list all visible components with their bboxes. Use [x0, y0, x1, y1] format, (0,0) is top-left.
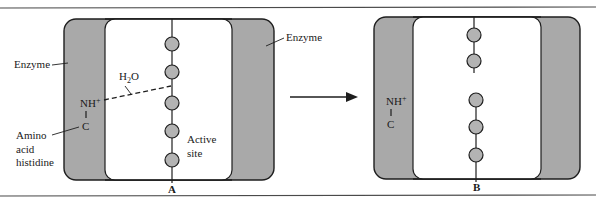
carbon-label-b: C [387, 118, 394, 130]
bead [469, 148, 483, 162]
bead [165, 96, 179, 110]
bead [165, 65, 179, 79]
enzyme-hydrolysis-diagram: H2O NH+ C Enzyme Enzyme Amino acid histi… [0, 0, 602, 203]
enzyme-label-left: Enzyme [14, 58, 50, 70]
active-site-label-line1: Active [187, 133, 216, 145]
bead [469, 93, 483, 107]
arrow-head-icon [346, 92, 358, 102]
top-rule [0, 7, 596, 8]
active-site-label-line2: site [187, 147, 202, 159]
panel-b-letter: B [473, 181, 481, 193]
bead [165, 153, 179, 167]
carbon-label-a: C [82, 120, 89, 132]
reaction-arrow [290, 92, 358, 102]
amino-acid-label-line3: histidine [16, 156, 54, 168]
panel-a-letter: A [168, 183, 176, 195]
amino-acid-label-line2: acid [16, 143, 35, 155]
panel-a: H2O NH+ C Enzyme Enzyme Amino acid histi… [14, 19, 322, 195]
panel-b: NH+ C B [374, 17, 580, 193]
bead [467, 54, 481, 68]
amino-acid-label-line1: Amino [16, 129, 47, 141]
enzyme-label-right: Enzyme [286, 31, 322, 43]
bead [165, 124, 179, 138]
bead [165, 37, 179, 51]
bead [469, 120, 483, 134]
bottom-rule [0, 195, 596, 196]
bead [467, 28, 481, 42]
